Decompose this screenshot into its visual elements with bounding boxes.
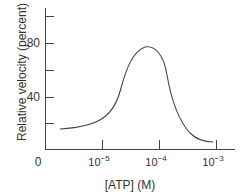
y-axis-label: Relative velocity (percent) <box>15 3 29 141</box>
y-ticks <box>45 17 54 124</box>
x-tick-label-1e-5: 10−5 <box>88 154 110 168</box>
chart: 80 40 0 10−5 10−4 10−3 [ATP] (M) Relativ… <box>0 0 246 195</box>
x-tick-label-1e-3: 10−3 <box>202 154 224 168</box>
x-ticks <box>103 140 217 149</box>
velocity-curve <box>60 47 213 142</box>
x-axis-label: [ATP] (M) <box>105 178 155 192</box>
x-tick-label-1e-4: 10−4 <box>145 154 167 168</box>
origin-label: 0 <box>35 155 42 169</box>
